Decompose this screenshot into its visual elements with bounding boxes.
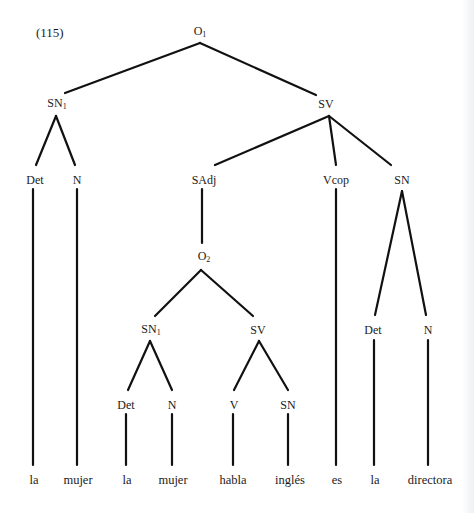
node-o1: O1: [194, 25, 207, 39]
node-det-inner: Det: [117, 399, 134, 411]
node-det-subject: Det: [26, 174, 43, 186]
word-mujer-1: mujer: [63, 474, 92, 487]
word-la-2: la: [122, 474, 131, 487]
tree-branches: [0, 0, 474, 513]
node-sv-main: SV: [318, 98, 333, 110]
node-sn1-inner: SN1: [141, 323, 160, 337]
word-directora: directora: [408, 474, 452, 487]
node-sadj: SAdj: [192, 174, 217, 186]
node-det-predicate: Det: [364, 324, 381, 336]
word-mujer-2: mujer: [158, 474, 187, 487]
node-sv-inner: SV: [250, 324, 265, 336]
example-number: (115): [36, 25, 64, 41]
node-v-inner: V: [230, 399, 239, 411]
node-sn-predicate: SN: [394, 174, 409, 186]
word-la-1: la: [29, 474, 38, 487]
node-sn-inner-object: SN: [280, 399, 295, 411]
word-es: es: [332, 474, 342, 487]
node-o2: O2: [198, 250, 211, 264]
node-n-predicate: N: [424, 324, 433, 336]
node-n-subject: N: [73, 174, 82, 186]
node-vcop: Vcop: [323, 174, 349, 186]
word-habla: habla: [219, 474, 246, 487]
node-sn1-subject: SN1: [47, 97, 66, 111]
node-n-inner: N: [168, 399, 177, 411]
word-la-3: la: [370, 474, 379, 487]
word-ingles: inglés: [275, 474, 305, 487]
